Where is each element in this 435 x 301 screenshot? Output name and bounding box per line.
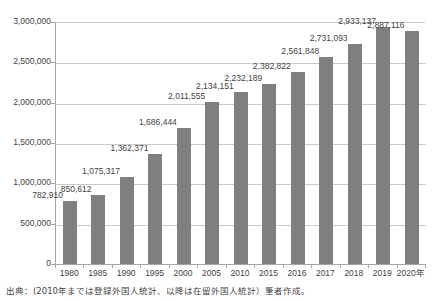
x-axis-tick-mark <box>55 264 56 268</box>
bar-value-label: 2,011,555 <box>153 92 205 101</box>
x-axis-tick-mark <box>311 264 312 268</box>
y-axis-tick-label: 1,500,000 <box>0 138 51 147</box>
bar-value-label: 2,731,093 <box>296 34 348 43</box>
x-axis-tick-label: 2018 <box>340 268 368 278</box>
x-axis-tick-label: 1980 <box>55 268 83 278</box>
bar-slot <box>398 22 426 264</box>
x-axis-tick-label: 2016 <box>283 268 311 278</box>
y-axis-tick-label: 500,000 <box>0 219 51 228</box>
x-axis-tick-label: 2015 <box>254 268 282 278</box>
bar-value-label: 850,612 <box>39 185 91 194</box>
bar[interactable] <box>177 128 191 264</box>
bar-slot <box>170 22 198 264</box>
bar[interactable] <box>262 84 276 264</box>
bar-slot <box>369 22 397 264</box>
x-axis-tick-mark <box>140 264 141 268</box>
bar-slot <box>312 22 340 264</box>
y-axis-tick-label: 2,000,000 <box>0 98 51 107</box>
bar-value-label: 1,686,444 <box>125 118 177 127</box>
x-axis-tick-label: 1995 <box>140 268 168 278</box>
y-axis-tick-label: 0 <box>0 259 51 268</box>
x-axis-tick-label: 2019 <box>368 268 396 278</box>
bar-value-label: 2,887,116 <box>353 21 405 30</box>
x-axis-tick-mark <box>397 264 398 268</box>
bar[interactable] <box>234 92 248 264</box>
y-axis-tick-label: 3,000,000 <box>0 17 51 26</box>
bar[interactable] <box>319 57 333 264</box>
bar-slot <box>284 22 312 264</box>
x-axis-tick-mark <box>226 264 227 268</box>
x-axis-tick-mark <box>425 264 426 268</box>
x-axis-tick-mark <box>197 264 198 268</box>
bar[interactable] <box>63 201 77 264</box>
bar-value-label: 1,362,371 <box>96 144 148 153</box>
bar-value-label: 2,561,848 <box>267 47 319 56</box>
bar[interactable] <box>405 31 419 264</box>
bar-value-label: 2,134,151 <box>182 82 234 91</box>
x-axis-tick-mark <box>340 264 341 268</box>
x-axis-tick-label: 2017 <box>311 268 339 278</box>
bar[interactable] <box>291 72 305 264</box>
x-axis-tick-label: 2020年 <box>397 268 425 278</box>
bar-value-label: 2,382,822 <box>239 62 291 71</box>
bar[interactable] <box>148 154 162 264</box>
bar-slot <box>255 22 283 264</box>
bar[interactable] <box>376 27 390 264</box>
x-axis-tick-label: 2000 <box>169 268 197 278</box>
x-axis-tick-mark <box>169 264 170 268</box>
x-axis-tick-mark <box>112 264 113 268</box>
bar-slot <box>198 22 226 264</box>
bar-value-label: 2,232,189 <box>210 74 262 83</box>
x-axis-tick-label: 1990 <box>112 268 140 278</box>
source-footnote: 出典：(2010年までは登録外国人統計、以降は在留外国人統計）筆者作成。 <box>6 286 310 297</box>
y-axis-tick-label: 2,500,000 <box>0 57 51 66</box>
x-axis-tick-label: 2010 <box>226 268 254 278</box>
bar[interactable] <box>120 177 134 264</box>
bar-chart-figure: 0500,0001,000,0001,500,0002,000,0002,500… <box>0 0 435 301</box>
x-axis-tick-mark <box>368 264 369 268</box>
x-axis-tick-mark <box>283 264 284 268</box>
bar[interactable] <box>91 195 105 264</box>
bar[interactable] <box>205 102 219 264</box>
bar[interactable] <box>348 44 362 264</box>
bar-slot <box>84 22 112 264</box>
x-axis-tick-mark <box>83 264 84 268</box>
x-axis-tick-label: 1985 <box>83 268 111 278</box>
bar-slot <box>341 22 369 264</box>
x-axis-tick-mark <box>254 264 255 268</box>
bar-slot <box>227 22 255 264</box>
x-axis-tick-label: 2005 <box>197 268 225 278</box>
bar-value-label: 1,075,317 <box>68 167 120 176</box>
bar-slot <box>56 22 84 264</box>
